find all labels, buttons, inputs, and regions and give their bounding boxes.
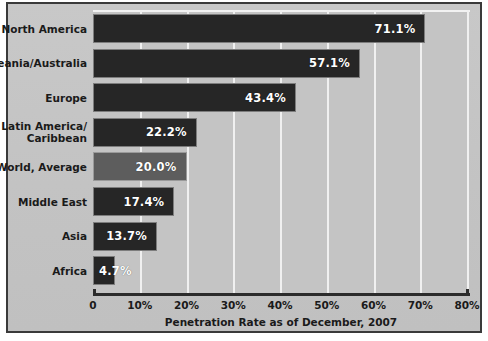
bar[interactable]: 57.1%	[93, 49, 360, 78]
bar[interactable]: 17.4%	[93, 187, 174, 216]
x-tick-label: 20%	[167, 299, 207, 311]
gridline	[374, 10, 376, 294]
bar[interactable]: 13.7%	[93, 222, 157, 251]
category-label: World, Average	[0, 161, 87, 173]
gridline	[420, 10, 422, 294]
bar[interactable]: 4.7%	[93, 256, 115, 285]
category-label: Asia	[0, 230, 87, 242]
bar[interactable]: 43.4%	[93, 83, 296, 112]
category-label: Oceania/Australia	[0, 57, 87, 69]
bar-value-label: 71.1%	[374, 22, 424, 36]
bar-value-label: 43.4%	[245, 91, 295, 105]
x-tick-label: 10%	[120, 299, 160, 311]
x-tick-label: 80%	[447, 299, 487, 311]
category-label: Middle East	[0, 196, 87, 208]
bar-value-label: 13.7%	[106, 229, 156, 243]
category-label: North America	[0, 23, 87, 35]
bar[interactable]: 22.2%	[93, 118, 197, 147]
x-tick-label: 70%	[400, 299, 440, 311]
bar-value-label: 17.4%	[123, 195, 173, 209]
x-tick-label: 50%	[307, 299, 347, 311]
bar-chart-figure: 71.1%57.1%43.4%22.2%20.0%17.4%13.7%4.7% …	[0, 0, 488, 341]
bar-value-label: 57.1%	[309, 56, 359, 70]
bar[interactable]: 71.1%	[93, 14, 425, 43]
x-tick-label: 60%	[354, 299, 394, 311]
x-tick-label: 0	[73, 299, 113, 311]
bar-value-label: 20.0%	[136, 160, 186, 174]
x-axis-title: Penetration Rate as of December, 2007	[93, 316, 469, 328]
x-axis-left-cap	[93, 289, 96, 296]
x-axis-line	[93, 293, 470, 296]
x-tick-label: 40%	[260, 299, 300, 311]
category-label: Europe	[0, 92, 87, 104]
x-axis-right-cap	[466, 289, 469, 296]
bar-value-label: 22.2%	[146, 125, 196, 139]
bar[interactable]: 20.0%	[93, 152, 187, 181]
gridline	[467, 10, 469, 294]
category-label: Africa	[0, 265, 87, 277]
x-tick-label: 30%	[213, 299, 253, 311]
category-label: Latin America/ Caribbean	[0, 120, 87, 144]
bar-value-label: 4.7%	[99, 264, 132, 278]
